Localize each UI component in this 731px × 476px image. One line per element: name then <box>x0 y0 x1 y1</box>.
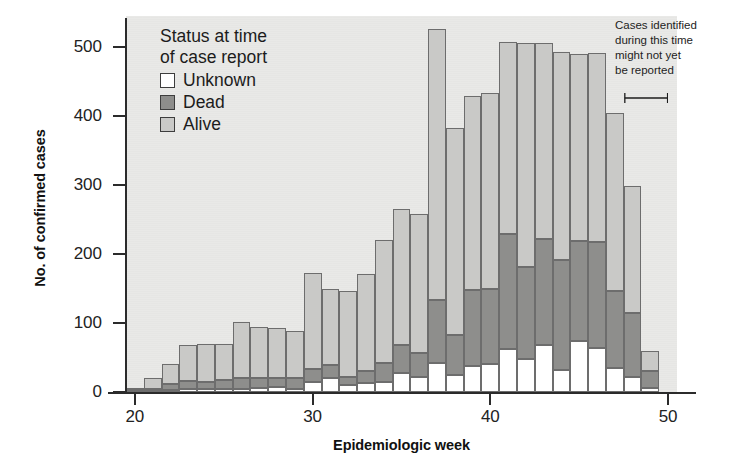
y-axis-label: No. of confirmed cases <box>32 18 48 398</box>
x-tick-40 <box>489 392 491 405</box>
annotation-line-2: during this time <box>615 33 727 48</box>
bar-segment-alive-week-34 <box>375 240 393 363</box>
bar-segment-dead-week-26 <box>233 378 251 389</box>
bar-segment-unknown-week-47 <box>606 368 624 392</box>
x-tick-label-50: 50 <box>638 408 698 426</box>
annotation-line-4: be reported <box>615 63 727 78</box>
bar-segment-unknown-week-34 <box>375 382 393 392</box>
x-tick-label-30: 30 <box>283 408 343 426</box>
legend-swatch-unknown-icon <box>160 73 175 88</box>
bar-segment-alive-week-33 <box>357 274 375 371</box>
legend-item-dead: Dead <box>160 92 350 112</box>
x-axis-line <box>108 392 696 394</box>
bar-segment-alive-week-36 <box>410 214 428 353</box>
y-tick-label-500: 500 <box>58 38 102 55</box>
bar-segment-dead-week-31 <box>322 365 340 378</box>
bar-segment-dead-week-25 <box>215 380 233 389</box>
bar-segment-dead-week-45 <box>570 241 588 341</box>
bar-segment-dead-week-33 <box>357 371 375 383</box>
bar-week-46 <box>588 16 606 392</box>
y-tick-200 <box>113 253 126 255</box>
annotation-line-1: Cases identified <box>615 18 727 33</box>
bar-segment-dead-week-34 <box>375 363 393 382</box>
bar-segment-alive-week-47 <box>606 113 624 290</box>
bar-segment-alive-week-48 <box>624 186 642 313</box>
bar-segment-alive-week-31 <box>322 289 340 365</box>
legend-label-alive: Alive <box>183 114 221 134</box>
late-reporting-annotation: Cases identifiedduring this timemight no… <box>615 18 727 78</box>
y-tick-label-300: 300 <box>58 176 102 193</box>
bar-segment-dead-week-35 <box>393 345 411 373</box>
bar-segment-unknown-week-31 <box>322 378 340 392</box>
bar-segment-unknown-week-36 <box>410 377 428 392</box>
bar-segment-alive-week-39 <box>464 96 482 290</box>
x-axis-label: Epidemiologic week <box>126 437 677 453</box>
late-reporting-bracket <box>624 92 668 104</box>
bar-week-38 <box>446 16 464 392</box>
bar-segment-alive-week-41 <box>499 42 517 234</box>
bar-week-44 <box>553 16 571 392</box>
bar-segment-dead-week-30 <box>304 369 322 383</box>
bar-segment-alive-week-26 <box>233 322 251 377</box>
bar-segment-dead-week-46 <box>588 242 606 348</box>
bar-segment-unknown-week-45 <box>570 341 588 392</box>
bar-segment-alive-week-25 <box>215 344 233 380</box>
x-tick-label-40: 40 <box>460 408 520 426</box>
bar-segment-unknown-week-44 <box>553 370 571 392</box>
legend-label-dead: Dead <box>183 92 225 112</box>
bar-segment-alive-week-27 <box>250 327 268 378</box>
x-tick-50 <box>667 392 669 405</box>
bar-segment-dead-week-32 <box>339 377 357 385</box>
annotation-line-3: might not yet <box>615 48 727 63</box>
epidemic-curve-figure: No. of confirmed cases 0100200300400500 … <box>0 0 731 476</box>
bar-segment-alive-week-49 <box>641 351 659 371</box>
bar-segment-dead-week-24 <box>197 382 215 389</box>
bar-segment-alive-week-46 <box>588 53 606 242</box>
bar-segment-unknown-week-38 <box>446 375 464 392</box>
legend-swatch-dead-icon <box>160 95 175 110</box>
legend-label-unknown: Unknown <box>183 70 256 90</box>
bar-segment-unknown-week-32 <box>339 385 357 392</box>
bar-week-39 <box>464 16 482 392</box>
bar-segment-alive-week-30 <box>304 273 322 369</box>
bar-segment-dead-week-22 <box>162 384 180 390</box>
bar-segment-dead-week-37 <box>428 300 446 363</box>
bar-week-43 <box>535 16 553 392</box>
legend-item-unknown: Unknown <box>160 70 350 90</box>
bar-week-34 <box>375 16 393 392</box>
bar-segment-unknown-week-43 <box>535 345 553 392</box>
bar-segment-dead-week-21 <box>144 389 162 391</box>
bar-week-33 <box>357 16 375 392</box>
bar-week-35 <box>393 16 411 392</box>
bar-segment-alive-week-24 <box>197 344 215 381</box>
bar-segment-unknown-week-37 <box>428 363 446 392</box>
legend-title-line-2: of case report <box>160 47 350 68</box>
bar-segment-unknown-week-46 <box>588 348 606 392</box>
bar-segment-alive-week-44 <box>553 52 571 260</box>
bar-segment-unknown-week-30 <box>304 382 322 392</box>
legend: Status at time of case report UnknownDea… <box>160 26 350 134</box>
bar-segment-alive-week-40 <box>481 93 499 288</box>
bar-segment-dead-week-44 <box>553 260 571 370</box>
bar-segment-alive-week-43 <box>535 43 553 239</box>
legend-items: UnknownDeadAlive <box>160 70 350 134</box>
bar-segment-alive-week-20 <box>126 388 144 390</box>
bar-segment-unknown-week-41 <box>499 349 517 392</box>
bar-segment-dead-week-43 <box>535 239 553 345</box>
bar-segment-dead-week-29 <box>286 378 304 388</box>
bar-segment-dead-week-36 <box>410 353 428 376</box>
x-tick-30 <box>312 392 314 405</box>
bar-segment-unknown-week-42 <box>517 359 535 392</box>
x-tick-20 <box>134 392 136 405</box>
bar-segment-alive-week-42 <box>517 43 535 267</box>
bar-segment-alive-week-22 <box>162 364 180 384</box>
bar-segment-unknown-week-39 <box>464 366 482 392</box>
bar-segment-dead-week-38 <box>446 335 464 375</box>
bar-segment-alive-week-45 <box>570 54 588 241</box>
y-tick-label-200: 200 <box>58 245 102 262</box>
bar-week-37 <box>428 16 446 392</box>
bar-segment-alive-week-38 <box>446 128 464 334</box>
bar-week-42 <box>517 16 535 392</box>
bar-segment-unknown-week-33 <box>357 383 375 392</box>
y-tick-label-100: 100 <box>58 314 102 331</box>
